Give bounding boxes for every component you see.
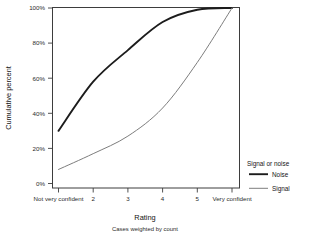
x-tick-label: 5 (196, 195, 200, 202)
chart-container: 100% 80% 60% 40% 20% 0% Cumulative perce… (0, 0, 319, 239)
x-tick-label: 4 (161, 195, 165, 202)
x-tick-label: 2 (91, 195, 95, 202)
x-axis-title: Rating (134, 213, 155, 222)
y-tick-label: 80% (33, 39, 46, 46)
y-tick-label: 20% (33, 145, 46, 152)
legend-label-noise: Noise (272, 171, 289, 178)
y-tick-label: 60% (33, 75, 46, 82)
x-tick-label: Not very confident (34, 195, 84, 202)
y-tick-label: 0% (36, 180, 45, 187)
x-tick-label: 3 (126, 195, 130, 202)
y-tick-label: 100% (29, 4, 45, 11)
cumulative-percent-line-chart: 100% 80% 60% 40% 20% 0% Cumulative perce… (0, 0, 319, 239)
chart-background (0, 0, 319, 239)
y-axis-title: Cumulative percent (4, 66, 13, 130)
x-tick-label: Very confident (212, 195, 251, 202)
y-tick-label: 40% (33, 110, 46, 117)
legend-title: Signal or noise (247, 160, 290, 168)
chart-footnote: Cases weighted by count (112, 226, 178, 232)
legend-label-signal: Signal (272, 185, 290, 193)
